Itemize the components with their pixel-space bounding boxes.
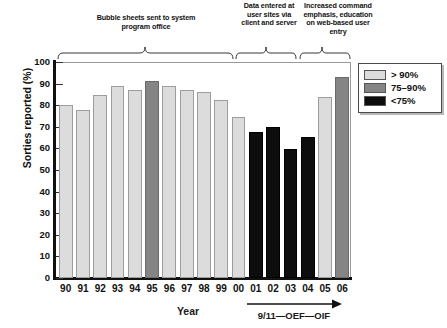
y-axis-tick-label: 0	[28, 273, 50, 283]
bar-96	[162, 86, 176, 278]
y-axis-tick-label: 100	[28, 57, 50, 67]
bar-04	[301, 137, 315, 278]
oef-arrow-icon	[246, 298, 342, 310]
legend-label-dark: <75%	[391, 95, 416, 106]
bar-05	[318, 97, 332, 278]
legend-swatch-dark	[364, 96, 386, 106]
y-axis-label-wrap: 20	[26, 230, 50, 240]
y-axis-tick-label: 30	[28, 208, 50, 218]
bar-98	[197, 92, 211, 278]
x-axis-tick-label: 99	[212, 283, 230, 294]
x-axis-title: Year	[158, 305, 218, 317]
bar-90	[59, 105, 73, 278]
x-axis-tick-label: 94	[126, 283, 144, 294]
x-axis-tick-label: 92	[91, 283, 109, 294]
legend-label-mid: 75–90%	[391, 82, 426, 93]
y-axis-tick-label: 20	[28, 230, 50, 240]
x-axis-tick-label: 96	[160, 283, 178, 294]
x-axis-tick-label: 98	[195, 283, 213, 294]
bar-series	[57, 62, 351, 278]
x-axis-tick-label: 04	[299, 283, 317, 294]
bar-93	[111, 86, 125, 278]
y-axis-label-wrap: 30	[26, 208, 50, 218]
y-axis-tick-label: 70	[28, 122, 50, 132]
x-axis-tick-label: 91	[74, 283, 92, 294]
y-axis-label-wrap: 60	[26, 143, 50, 153]
y-axis-label-wrap: 40	[26, 187, 50, 197]
y-axis-label-wrap: 100	[26, 57, 50, 67]
legend-swatch-light	[364, 70, 386, 80]
x-axis-tick-label: 93	[109, 283, 127, 294]
y-axis-label-wrap: 80	[26, 100, 50, 110]
y-axis-tick-label: 80	[28, 100, 50, 110]
legend-item-light: > 90%	[364, 69, 437, 80]
y-axis-tick-label: 50	[28, 165, 50, 175]
bar-94	[128, 90, 142, 278]
y-axis-tick-label: 60	[28, 143, 50, 153]
bar-03	[284, 149, 298, 278]
x-axis-tick-label: 03	[281, 283, 299, 294]
y-axis-tick	[56, 278, 63, 279]
y-axis-tick-label: 90	[28, 79, 50, 89]
bar-92	[93, 95, 107, 278]
x-axis-tick-label: 00	[230, 283, 248, 294]
bar-91	[76, 110, 90, 278]
oef-oif-note: 9/11—OEF—OIF	[246, 310, 342, 321]
x-axis-tick-label: 06	[333, 283, 351, 294]
x-axis-tick-label: 90	[57, 283, 75, 294]
bar-01	[249, 132, 263, 278]
y-axis-tick-label: 10	[28, 251, 50, 261]
legend-label-light: > 90%	[391, 69, 418, 80]
bar-95	[145, 81, 159, 278]
x-axis-tick-label: 05	[316, 283, 334, 294]
legend-swatch-mid	[364, 83, 386, 93]
legend-item-dark: <75%	[364, 95, 437, 106]
bar-99	[214, 100, 228, 278]
bar-97	[180, 90, 194, 278]
chart-legend: > 90%75–90%<75%	[358, 63, 442, 113]
bar-02	[266, 127, 280, 278]
x-axis-tick-label: 01	[247, 283, 265, 294]
y-axis-label-wrap: 0	[26, 273, 50, 283]
y-axis-label-wrap: 70	[26, 122, 50, 132]
bar-00	[232, 117, 246, 278]
x-axis-tick-label: 02	[264, 283, 282, 294]
x-axis-tick-label: 95	[143, 283, 161, 294]
y-axis-label-wrap: 90	[26, 79, 50, 89]
legend-item-mid: 75–90%	[364, 82, 437, 93]
x-axis-tick-label: 97	[178, 283, 196, 294]
y-axis-tick-label: 40	[28, 187, 50, 197]
y-axis-label-wrap: 10	[26, 251, 50, 261]
y-axis-label-wrap: 50	[26, 165, 50, 175]
bar-06	[335, 77, 349, 278]
